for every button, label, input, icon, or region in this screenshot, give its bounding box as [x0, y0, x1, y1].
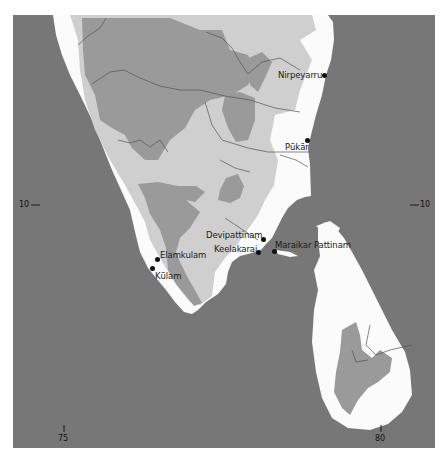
place-label-pukar: Pūkār	[285, 142, 309, 152]
lat-label-right: 10	[420, 200, 430, 209]
place-label-keelakarai: Keelakarai	[214, 244, 257, 254]
place-dot-nirpeyarru[interactable]	[322, 73, 327, 78]
place-label-nirpeyarru: Nirpeyarru	[278, 70, 322, 80]
lat-label-left: 10	[19, 200, 29, 209]
place-label-elamkulam: Elamkulam	[160, 250, 206, 260]
place-label-maraikar-pattinam: Maraikar Pattinam	[275, 240, 351, 250]
map-canvas	[0, 0, 447, 457]
lon-label-75: 75	[58, 434, 68, 443]
lon-label-80: 80	[375, 434, 385, 443]
place-label-kulam: Kūlam	[155, 271, 181, 281]
place-label-devipattinam: Devipattinam	[206, 230, 262, 240]
